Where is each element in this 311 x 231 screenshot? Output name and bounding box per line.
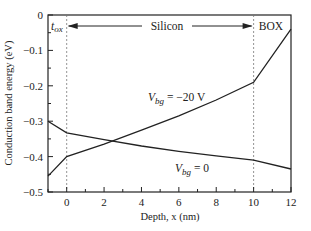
y-tick-label: −0.3 (23, 115, 43, 127)
series-label-value: = 0 (191, 162, 209, 174)
series-label: Vbg = 0 (175, 162, 209, 177)
x-tick-label: 6 (176, 196, 182, 208)
x-tick-label: 8 (213, 196, 219, 208)
series-line (48, 121, 291, 169)
y-tick-label: −0.2 (23, 80, 43, 92)
tox-label: tox (51, 20, 63, 34)
arrow-head-right-icon (243, 23, 253, 29)
series-label: Vbg = −20 V (148, 91, 206, 106)
box-label: BOX (259, 20, 284, 32)
x-axis: 024681012 (48, 187, 297, 208)
arrow-head-left-icon (68, 23, 78, 29)
plot-frame (48, 15, 291, 192)
x-axis-label: Depth, x (nm) (140, 211, 200, 223)
y-tick-label: −0.4 (23, 151, 43, 163)
silicon-label: Silicon (151, 20, 184, 32)
y-tick-label: −0.1 (23, 44, 43, 56)
plot-area (48, 15, 291, 192)
x-tick-label: 10 (248, 196, 260, 208)
x-tick-label: 4 (139, 196, 145, 208)
y-tick-label: −0.5 (23, 186, 43, 198)
y-tick-label: 0 (38, 9, 44, 21)
y-axis-label: Conduction band energy (eV) (3, 40, 15, 165)
x-tick-label: 2 (101, 196, 107, 208)
tox-subscript: ox (54, 24, 63, 34)
chart: 024681012 0−0.1−0.2−0.3−0.4−0.5 Depth, x… (0, 0, 311, 231)
annotations: SiliconBOXtoxVbg = 0Vbg = −20 V (51, 20, 284, 177)
x-tick-label: 0 (64, 196, 70, 208)
x-tick-label: 12 (286, 196, 297, 208)
series-label-value: = −20 V (164, 91, 206, 103)
